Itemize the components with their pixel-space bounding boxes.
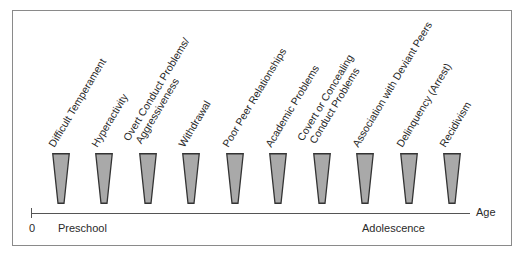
trapezoid-icon [443, 153, 461, 204]
trapezoid-icon [226, 153, 244, 204]
stage-marker [226, 153, 244, 204]
axis-origin-label: 0 [29, 222, 35, 234]
trapezoid-icon [52, 153, 70, 204]
axis-preschool-label: Preschool [58, 222, 107, 234]
trapezoid-icon [139, 153, 157, 204]
axis-adolescence-label: Adolescence [362, 222, 425, 234]
stage-marker [139, 153, 157, 204]
trapezoid-icon [269, 153, 287, 204]
stage-marker [269, 153, 287, 204]
axis-title-age: Age [476, 206, 496, 218]
stage-marker [52, 153, 70, 204]
trapezoid-icon [313, 153, 331, 204]
stage-marker [356, 153, 374, 204]
stage-marker [400, 153, 418, 204]
stage-marker [443, 153, 461, 204]
trapezoid-icon [400, 153, 418, 204]
trapezoid-icon [356, 153, 374, 204]
trapezoid-icon [95, 153, 113, 204]
age-axis-line [32, 213, 470, 214]
diagram-frame [12, 10, 512, 246]
stage-marker [313, 153, 331, 204]
stage-marker [95, 153, 113, 204]
stage-marker [182, 153, 200, 204]
trapezoid-icon [182, 153, 200, 204]
